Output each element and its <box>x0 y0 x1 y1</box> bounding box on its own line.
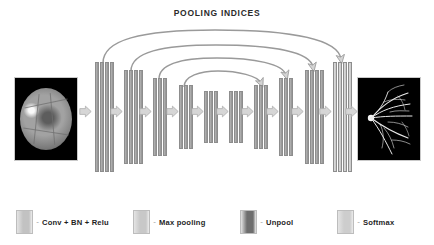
legend-softmax-swatch <box>337 210 354 234</box>
conv-bar <box>254 85 258 149</box>
flow-arrow-flow-3-4 <box>166 105 179 118</box>
flow-arrow-flow-out <box>345 105 358 118</box>
legend-maxpool: -Max pooling <box>133 206 206 238</box>
conv-bar <box>124 70 128 164</box>
flow-arrow-flow-6-7 <box>241 105 254 118</box>
conv-bar <box>259 85 263 149</box>
flow-arrow-flow-9-10 <box>319 105 332 118</box>
flow-arrow-flow-8-9 <box>291 105 304 118</box>
conv-bar <box>310 70 314 164</box>
conv-bar <box>209 91 213 143</box>
legend-conv: -Conv + BN + Relu <box>16 206 109 238</box>
flow-arrow-flow-2-3 <box>139 105 152 118</box>
flow-arrow-flow-7-8 <box>266 105 279 118</box>
flow-arrow-flow-4-5 <box>191 105 204 118</box>
conv-block-enc3 <box>153 78 167 156</box>
legend-softmax-label: Softmax <box>363 218 394 227</box>
conv-bar <box>184 85 188 149</box>
conv-bar <box>95 62 99 172</box>
conv-bar <box>158 78 162 156</box>
fundus-disc <box>20 88 72 150</box>
legend-maxpool-label: Max pooling <box>159 218 206 227</box>
pool-indices-curve-2 <box>131 45 313 71</box>
legend-unpool: -Unpool <box>240 206 293 238</box>
legend-unpool-label: Unpool <box>266 218 293 227</box>
figure-title: POOLING INDICES <box>0 8 434 18</box>
conv-bar <box>234 91 238 143</box>
conv-bar <box>305 70 309 164</box>
pool-indices-curve-1 <box>103 30 341 63</box>
legend-unpool-swatch <box>240 210 257 234</box>
legend-softmax-separator: - <box>354 218 363 226</box>
legend-maxpool-swatch <box>133 210 150 234</box>
legend: -Conv + BN + Relu-Max pooling-Unpool-Sof… <box>0 206 434 238</box>
conv-bar <box>100 62 104 172</box>
figure-canvas: POOLING INDICES <box>0 0 434 245</box>
conv-bar <box>338 62 342 172</box>
legend-unpool-separator: - <box>257 218 266 226</box>
pool-indices-curve-4 <box>184 71 261 87</box>
conv-bar <box>279 78 283 156</box>
conv-bar <box>134 70 138 164</box>
vessel-tree-graphic <box>358 78 420 160</box>
flow-arrow-flow-1-2 <box>110 105 123 118</box>
flow-arrow-flow-in <box>79 105 92 118</box>
legend-conv-separator: - <box>33 218 42 226</box>
conv-bar <box>229 91 233 143</box>
legend-softmax: -Softmax <box>337 206 394 238</box>
pool-indices-curve-3 <box>159 58 286 79</box>
conv-bar <box>179 85 183 149</box>
conv-bar <box>204 91 208 143</box>
legend-maxpool-separator: - <box>150 218 159 226</box>
flow-arrow-flow-5-6 <box>216 105 229 118</box>
legend-conv-label: Conv + BN + Relu <box>42 218 109 227</box>
conv-bar <box>284 78 288 156</box>
conv-bar <box>333 62 337 172</box>
conv-bar <box>129 70 133 164</box>
vessel-segmentation-output-image <box>357 77 421 161</box>
legend-conv-swatch <box>16 210 33 234</box>
retinal-fundus-input-image <box>14 77 78 161</box>
conv-bar <box>105 62 109 172</box>
conv-bar <box>153 78 157 156</box>
